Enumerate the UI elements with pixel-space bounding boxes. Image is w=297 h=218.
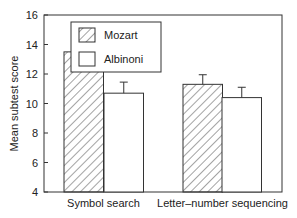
- y-tick-label: 8: [32, 127, 38, 139]
- y-tick-label: 12: [26, 68, 38, 80]
- category-label: Symbol search: [67, 197, 140, 209]
- category-label: Letter–number sequencing: [157, 197, 288, 209]
- bar-albinoni: [222, 98, 262, 192]
- bar-chart: 46810121416Mean subtest scoreSymbol sear…: [0, 0, 297, 218]
- legend-label-albinoni: Albinoni: [104, 53, 143, 65]
- legend-swatch-albinoni: [79, 52, 95, 66]
- y-tick-label: 4: [32, 186, 38, 198]
- bar-albinoni: [104, 93, 144, 192]
- y-tick-label: 14: [26, 39, 38, 51]
- y-tick-label: 16: [26, 9, 38, 21]
- y-tick-label: 6: [32, 157, 38, 169]
- legend-swatch-mozart: [79, 28, 95, 42]
- bar-mozart: [183, 84, 223, 192]
- y-tick-label: 10: [26, 98, 38, 110]
- legend-label-mozart: Mozart: [104, 29, 138, 41]
- bar-mozart: [64, 52, 104, 192]
- plot-area: 46810121416Mean subtest scoreSymbol sear…: [8, 9, 288, 209]
- y-axis-label: Mean subtest score: [8, 56, 20, 152]
